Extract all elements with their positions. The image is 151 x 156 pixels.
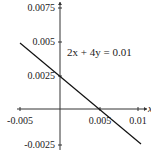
x-tick-label: 0.01: [129, 115, 147, 126]
x-axis-arrow-icon: [144, 107, 147, 111]
chart: 0.0075 0.005 0.0025 -0.0025 -0.005 0.005…: [0, 0, 151, 156]
equation-label: 2x + 4y = 0.01: [67, 46, 132, 58]
x-tick-label: -0.005: [7, 115, 33, 126]
y-tick-label: 0.0075: [28, 2, 56, 13]
y-axis-arrow-icon: [58, 2, 62, 5]
y-tick-label: 0.005: [33, 36, 56, 47]
data-line: [20, 43, 141, 144]
y-tick-label: -0.0025: [24, 139, 55, 150]
x-axis-label: x: [147, 103, 151, 114]
y-tick-label: 0.0025: [28, 70, 56, 81]
